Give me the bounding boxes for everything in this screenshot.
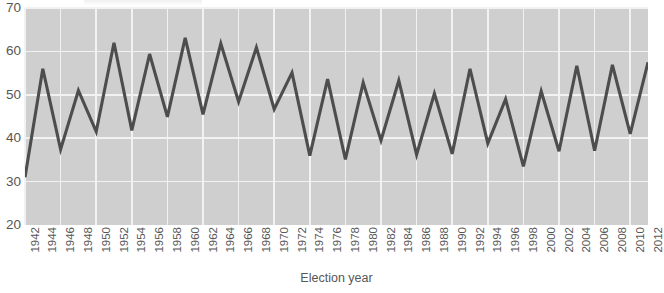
x-axis-tick-label: 1944 <box>47 227 59 253</box>
x-axis-tick-label: 1984 <box>403 227 415 253</box>
x-axis-tick-label: 1942 <box>30 227 42 253</box>
x-axis-tick-label: 1976 <box>332 227 344 253</box>
x-axis-tick-label: 2000 <box>546 227 558 253</box>
x-axis-tick-label: 1962 <box>208 227 220 253</box>
x-axis-tick-label: 1952 <box>119 227 131 253</box>
x-axis-tick-label: 1994 <box>492 227 504 253</box>
y-axis-tick-label: 40 <box>6 131 21 145</box>
series-layer <box>25 8 648 225</box>
y-axis-tick-label: 60 <box>6 45 21 59</box>
y-axis-tick-label: 20 <box>6 218 21 232</box>
y-axis-tick-label: 30 <box>6 175 21 189</box>
x-axis-tick-label: 1956 <box>154 227 166 253</box>
y-axis-tick-label: 70 <box>6 1 21 15</box>
x-axis-tick-label: 2002 <box>564 227 576 253</box>
x-axis-tick-label: 1968 <box>261 227 273 253</box>
x-axis-tick-label: 1948 <box>83 227 95 253</box>
x-axis-tick-label: 2006 <box>599 227 611 253</box>
x-axis-tick-label: 1954 <box>136 227 148 253</box>
x-axis-tick-label: 1982 <box>386 227 398 253</box>
x-axis-tick-label: 2010 <box>635 227 647 253</box>
x-axis-tick-label: 1992 <box>475 227 487 253</box>
y-axis-tick-label: 50 <box>6 88 21 102</box>
x-axis-tick-label: 2012 <box>653 227 664 253</box>
x-axis-tick-label: 2004 <box>581 227 593 253</box>
clipped-title-artifact <box>84 0 202 5</box>
x-axis-tick-label: 2008 <box>617 227 629 253</box>
x-axis-tick-label: 1964 <box>225 227 237 253</box>
x-axis-tick-label: 1946 <box>65 227 77 253</box>
x-axis-tick-label: 1950 <box>101 227 113 253</box>
x-axis-tick-label: 1988 <box>439 227 451 253</box>
x-axis-tick-label: 1974 <box>314 227 326 253</box>
x-axis-tick-label: 1998 <box>528 227 540 253</box>
y-axis: 203040506070 <box>0 0 25 233</box>
x-axis-tick-label: 1966 <box>243 227 255 253</box>
plot-area <box>25 8 648 225</box>
turnout-line-chart <box>25 8 648 225</box>
x-axis-tick-label: 1980 <box>368 227 380 253</box>
x-axis-tick-label: 1990 <box>457 227 469 253</box>
x-axis-tick-label: 1958 <box>172 227 184 253</box>
x-axis-title: Election year <box>25 271 648 285</box>
x-axis-tick-label: 1970 <box>279 227 291 253</box>
x-axis-tick-label: 1978 <box>350 227 362 253</box>
x-axis-tick-label: 1960 <box>190 227 202 253</box>
x-axis-tick-label: 1996 <box>510 227 522 253</box>
voter-turnout-line <box>25 38 648 177</box>
x-axis-tick-label: 1986 <box>421 227 433 253</box>
x-axis-tick-label: 1972 <box>297 227 309 253</box>
x-axis: 1942194419461948195019521954195619581960… <box>25 227 648 272</box>
